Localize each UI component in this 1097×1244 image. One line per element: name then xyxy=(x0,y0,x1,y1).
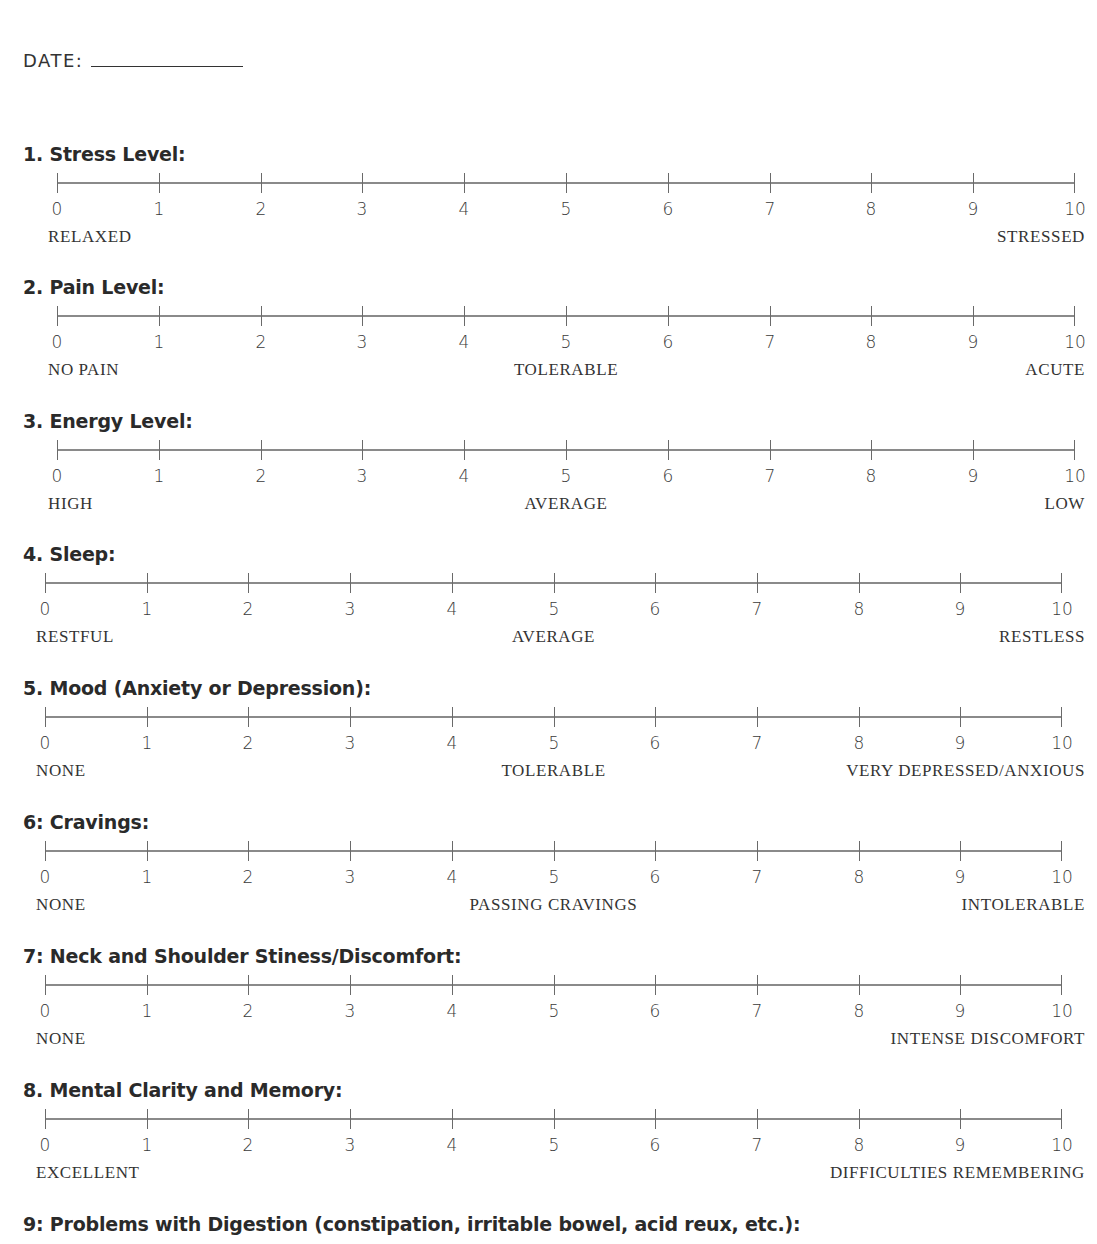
scale-number-2[interactable]: 2 xyxy=(243,733,254,753)
scale-tick-9[interactable] xyxy=(960,573,961,593)
scale-tick-2[interactable] xyxy=(248,975,249,995)
scale-number-2[interactable]: 2 xyxy=(243,1135,254,1155)
scale-tick-6[interactable] xyxy=(668,306,669,326)
scale-number-9[interactable]: 9 xyxy=(955,599,966,619)
scale-number-10[interactable]: 10 xyxy=(1051,1135,1073,1155)
scale-tick-5[interactable] xyxy=(554,707,555,727)
scale-number-2[interactable]: 2 xyxy=(256,199,267,219)
scale-number-9[interactable]: 9 xyxy=(955,1135,966,1155)
scale-tick-2[interactable] xyxy=(261,173,262,193)
scale-tick-9[interactable] xyxy=(973,173,974,193)
scale-number-10[interactable]: 10 xyxy=(1051,867,1073,887)
scale-tick-8[interactable] xyxy=(859,975,860,995)
scale-number-8[interactable]: 8 xyxy=(854,599,865,619)
scale-tick-10[interactable] xyxy=(1074,440,1075,460)
scale-number-0[interactable]: 0 xyxy=(52,466,63,486)
scale-number-4[interactable]: 4 xyxy=(447,733,458,753)
scale-number-4[interactable]: 4 xyxy=(447,1001,458,1021)
scale-tick-2[interactable] xyxy=(248,1109,249,1129)
scale-tick-0[interactable] xyxy=(45,841,46,861)
scale-tick-8[interactable] xyxy=(859,841,860,861)
scale-tick-4[interactable] xyxy=(452,841,453,861)
scale-tick-9[interactable] xyxy=(973,306,974,326)
scale-tick-7[interactable] xyxy=(770,173,771,193)
scale-number-0[interactable]: 0 xyxy=(40,867,51,887)
scale-number-1[interactable]: 1 xyxy=(154,199,165,219)
scale-tick-0[interactable] xyxy=(45,573,46,593)
scale-number-2[interactable]: 2 xyxy=(243,599,254,619)
scale-number-8[interactable]: 8 xyxy=(854,867,865,887)
scale-tick-5[interactable] xyxy=(566,440,567,460)
scale-tick-6[interactable] xyxy=(655,1109,656,1129)
scale-number-4[interactable]: 4 xyxy=(459,332,470,352)
scale-tick-3[interactable] xyxy=(362,173,363,193)
scale-number-0[interactable]: 0 xyxy=(52,199,63,219)
scale-number-7[interactable]: 7 xyxy=(752,1135,763,1155)
scale-tick-9[interactable] xyxy=(960,841,961,861)
date-input-line[interactable] xyxy=(91,66,243,67)
scale-number-6[interactable]: 6 xyxy=(650,599,661,619)
scale-tick-10[interactable] xyxy=(1074,306,1075,326)
scale-number-3[interactable]: 3 xyxy=(357,466,368,486)
scale-tick-0[interactable] xyxy=(57,173,58,193)
scale-number-6[interactable]: 6 xyxy=(663,466,674,486)
scale-tick-2[interactable] xyxy=(261,306,262,326)
scale-tick-8[interactable] xyxy=(871,173,872,193)
scale-tick-0[interactable] xyxy=(45,975,46,995)
scale-tick-8[interactable] xyxy=(871,440,872,460)
scale-number-3[interactable]: 3 xyxy=(345,733,356,753)
scale-tick-10[interactable] xyxy=(1061,573,1062,593)
scale-tick-0[interactable] xyxy=(57,306,58,326)
scale-tick-1[interactable] xyxy=(159,173,160,193)
scale-number-0[interactable]: 0 xyxy=(52,332,63,352)
scale-number-9[interactable]: 9 xyxy=(968,199,979,219)
scale-tick-6[interactable] xyxy=(668,440,669,460)
scale-tick-4[interactable] xyxy=(464,306,465,326)
scale-tick-5[interactable] xyxy=(566,306,567,326)
scale-number-10[interactable]: 10 xyxy=(1064,199,1086,219)
scale-number-7[interactable]: 7 xyxy=(752,599,763,619)
scale-number-10[interactable]: 10 xyxy=(1064,332,1086,352)
scale-tick-0[interactable] xyxy=(45,707,46,727)
scale-number-5[interactable]: 5 xyxy=(549,733,560,753)
scale-tick-5[interactable] xyxy=(554,975,555,995)
scale-number-3[interactable]: 3 xyxy=(345,1001,356,1021)
scale-number-2[interactable]: 2 xyxy=(256,466,267,486)
scale-number-4[interactable]: 4 xyxy=(447,1135,458,1155)
scale-tick-4[interactable] xyxy=(464,440,465,460)
scale-tick-6[interactable] xyxy=(655,707,656,727)
scale-number-6[interactable]: 6 xyxy=(650,867,661,887)
scale-number-1[interactable]: 1 xyxy=(154,332,165,352)
scale-number-6[interactable]: 6 xyxy=(663,332,674,352)
scale-tick-1[interactable] xyxy=(147,975,148,995)
scale-tick-10[interactable] xyxy=(1061,1109,1062,1129)
scale-number-9[interactable]: 9 xyxy=(955,1001,966,1021)
scale-number-5[interactable]: 5 xyxy=(561,199,572,219)
scale-tick-1[interactable] xyxy=(147,707,148,727)
scale-tick-9[interactable] xyxy=(960,1109,961,1129)
scale-number-4[interactable]: 4 xyxy=(447,867,458,887)
scale-tick-5[interactable] xyxy=(554,841,555,861)
scale-number-3[interactable]: 3 xyxy=(357,199,368,219)
scale-number-8[interactable]: 8 xyxy=(866,332,877,352)
scale-tick-7[interactable] xyxy=(757,841,758,861)
scale-number-10[interactable]: 10 xyxy=(1051,733,1073,753)
scale-number-10[interactable]: 10 xyxy=(1051,599,1073,619)
scale-number-3[interactable]: 3 xyxy=(345,1135,356,1155)
scale-number-5[interactable]: 5 xyxy=(549,867,560,887)
scale-number-4[interactable]: 4 xyxy=(459,199,470,219)
scale-tick-3[interactable] xyxy=(362,306,363,326)
scale-tick-6[interactable] xyxy=(655,975,656,995)
scale-tick-6[interactable] xyxy=(655,841,656,861)
scale-tick-10[interactable] xyxy=(1061,975,1062,995)
scale-tick-5[interactable] xyxy=(554,1109,555,1129)
rating-scale-line[interactable] xyxy=(57,306,1075,326)
scale-number-1[interactable]: 1 xyxy=(142,733,153,753)
scale-tick-5[interactable] xyxy=(554,573,555,593)
scale-tick-7[interactable] xyxy=(770,306,771,326)
scale-tick-3[interactable] xyxy=(362,440,363,460)
scale-tick-7[interactable] xyxy=(757,573,758,593)
rating-scale-line[interactable] xyxy=(45,1109,1062,1129)
scale-tick-10[interactable] xyxy=(1061,841,1062,861)
scale-number-2[interactable]: 2 xyxy=(256,332,267,352)
